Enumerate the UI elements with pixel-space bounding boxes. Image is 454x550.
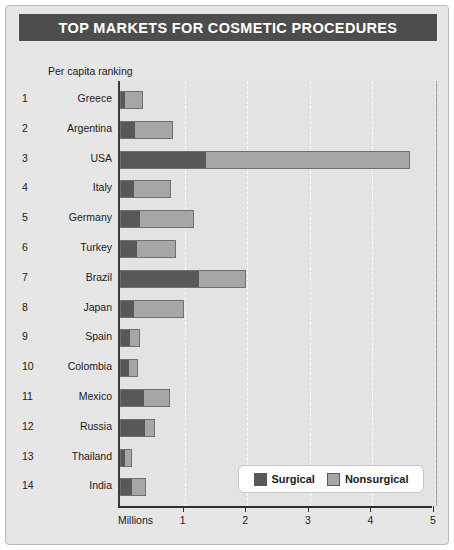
bar-segment-surgical	[121, 211, 140, 227]
row-country-label: Brazil	[22, 263, 112, 292]
x-tick-label-2: 2	[242, 514, 248, 526]
bar-segment-nonsurgical	[140, 211, 193, 227]
x-tick-1	[183, 506, 184, 512]
x-tick-2	[245, 506, 246, 512]
row-country-label: Spain	[22, 322, 112, 351]
chart-row: 12Russia	[6, 412, 446, 441]
legend: Surgical Nonsurgical	[238, 465, 424, 493]
legend-item-surgical: Surgical	[254, 473, 315, 486]
row-country-label: Colombia	[22, 352, 112, 381]
x-tick-4	[370, 506, 371, 512]
row-country-label: Greece	[22, 84, 112, 113]
chart-row: 7Brazil	[6, 263, 446, 292]
stacked-bar	[120, 419, 155, 437]
bar-segment-surgical	[121, 122, 135, 138]
x-axis-unit-label: Millions	[118, 514, 153, 526]
x-tick-label-3: 3	[305, 514, 311, 526]
x-tick-5	[433, 506, 434, 512]
ranking-axis-label: Per capita ranking	[48, 65, 133, 77]
bar-segment-nonsurgical	[125, 450, 131, 466]
stacked-bar	[120, 180, 171, 198]
square-swatch-icon	[254, 473, 267, 486]
bar-segment-surgical	[121, 390, 144, 406]
legend-label-nonsurgical: Nonsurgical	[345, 473, 409, 485]
bar-segment-surgical	[121, 181, 134, 197]
stacked-bar	[120, 300, 184, 318]
bar-segment-nonsurgical	[135, 122, 172, 138]
chart-row: 11Mexico	[6, 382, 446, 411]
x-tick-label-1: 1	[180, 514, 186, 526]
bar-segment-nonsurgical	[145, 420, 154, 436]
chart-row: 1Greece	[6, 84, 446, 113]
chart-row: 10Colombia	[6, 352, 446, 381]
row-country-label: USA	[22, 144, 112, 173]
row-country-label: Russia	[22, 412, 112, 441]
bar-segment-surgical	[121, 152, 206, 168]
stacked-bar	[120, 121, 173, 139]
legend-item-nonsurgical: Nonsurgical	[327, 473, 409, 486]
stacked-bar	[120, 91, 143, 109]
stacked-bar	[120, 270, 246, 288]
square-swatch-icon	[327, 473, 340, 486]
chart-row: 3USA	[6, 144, 446, 173]
stacked-bar	[120, 359, 138, 377]
legend-label-surgical: Surgical	[272, 473, 315, 485]
bar-segment-nonsurgical	[132, 479, 145, 495]
chart-row: 5Germany	[6, 203, 446, 232]
x-tick-3	[308, 506, 309, 512]
row-country-label: Mexico	[22, 382, 112, 411]
bar-segment-surgical	[121, 271, 199, 287]
bar-segment-nonsurgical	[125, 92, 142, 108]
chart-row: 6Turkey	[6, 233, 446, 262]
row-country-label: India	[22, 471, 112, 500]
bar-segment-nonsurgical	[137, 241, 176, 257]
bar-segment-surgical	[121, 241, 137, 257]
bar-segment-nonsurgical	[144, 390, 169, 406]
bar-segment-surgical	[121, 301, 134, 317]
chart-row: 9Spain	[6, 322, 446, 351]
bar-segment-surgical	[121, 479, 132, 495]
stacked-bar	[120, 329, 140, 347]
bar-segment-surgical	[121, 330, 130, 346]
row-country-label: Germany	[22, 203, 112, 232]
bar-segment-nonsurgical	[130, 330, 139, 346]
bar-segment-nonsurgical	[199, 271, 245, 287]
stacked-bar	[120, 240, 176, 258]
chart-row: 8Japan	[6, 293, 446, 322]
chart-row: 4Italy	[6, 173, 446, 202]
page-title: TOP MARKETS FOR COSMETIC PROCEDURES	[59, 20, 398, 36]
bar-segment-nonsurgical	[129, 360, 137, 376]
x-tick-label-5: 5	[430, 514, 436, 526]
bar-segment-surgical	[121, 420, 145, 436]
stacked-bar	[120, 210, 194, 228]
bar-segment-surgical	[121, 360, 129, 376]
stacked-bar	[120, 478, 146, 496]
bar-segment-nonsurgical	[134, 301, 183, 317]
stacked-bar	[120, 449, 132, 467]
chart-row: 2Argentina	[6, 114, 446, 143]
row-country-label: Italy	[22, 173, 112, 202]
bar-segment-nonsurgical	[206, 152, 409, 168]
row-country-label: Japan	[22, 293, 112, 322]
chart-card: TOP MARKETS FOR COSMETIC PROCEDURES Per …	[5, 5, 449, 545]
row-country-label: Turkey	[22, 233, 112, 262]
row-country-label: Argentina	[22, 114, 112, 143]
bar-segment-nonsurgical	[134, 181, 170, 197]
stacked-bar	[120, 389, 170, 407]
stacked-bar	[120, 151, 410, 169]
x-tick-label-4: 4	[367, 514, 373, 526]
x-axis-line	[118, 506, 432, 508]
chart-title-bar: TOP MARKETS FOR COSMETIC PROCEDURES	[19, 14, 437, 41]
row-country-label: Thailand	[22, 442, 112, 471]
